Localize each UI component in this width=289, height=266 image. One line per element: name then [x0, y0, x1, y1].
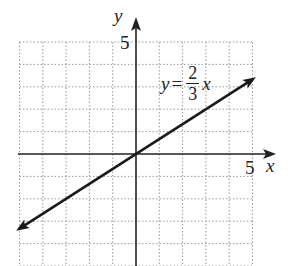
y-axis-label: y	[114, 6, 122, 25]
y-axis	[131, 17, 141, 266]
y-tick-label: 5	[120, 33, 130, 52]
x-tick-label: 5	[245, 158, 255, 177]
equation-rhs: x	[202, 74, 210, 93]
fraction-denominator: 3	[188, 85, 197, 103]
x-axis	[18, 149, 276, 159]
fraction-numerator: 2	[188, 64, 197, 82]
x-axis-label: x	[266, 156, 274, 175]
equation-lhs: y	[161, 74, 169, 93]
coordinate-plane	[0, 0, 289, 266]
equation-fraction: 2 3	[186, 64, 199, 103]
equation-label: y = 2 3 x	[161, 64, 211, 103]
equation-equals: =	[171, 74, 182, 93]
